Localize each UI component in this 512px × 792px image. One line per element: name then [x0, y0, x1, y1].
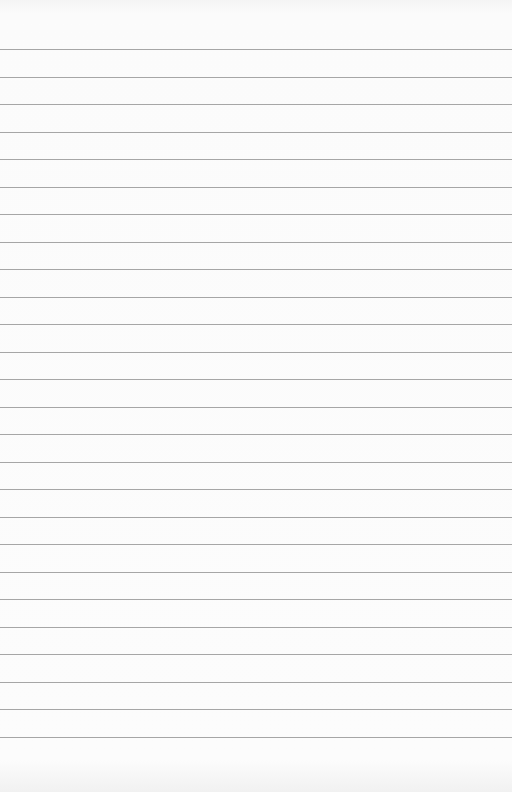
- ruled-line: [0, 572, 512, 573]
- ruled-line: [0, 627, 512, 628]
- ruled-line: [0, 242, 512, 243]
- ruled-line: [0, 434, 512, 435]
- ruled-line: [0, 159, 512, 160]
- ruled-line: [0, 737, 512, 738]
- ruled-line: [0, 297, 512, 298]
- ruled-line: [0, 132, 512, 133]
- lined-paper-sheet: [0, 0, 512, 792]
- ruled-line: [0, 324, 512, 325]
- ruled-line: [0, 352, 512, 353]
- ruled-line: [0, 77, 512, 78]
- ruled-line: [0, 104, 512, 105]
- ruled-line: [0, 49, 512, 50]
- ruled-line: [0, 462, 512, 463]
- ruled-line: [0, 489, 512, 490]
- ruled-line: [0, 709, 512, 710]
- ruled-line: [0, 544, 512, 545]
- ruled-line: [0, 654, 512, 655]
- ruled-line: [0, 269, 512, 270]
- ruled-line: [0, 379, 512, 380]
- ruled-line: [0, 517, 512, 518]
- ruled-line: [0, 407, 512, 408]
- ruled-line: [0, 599, 512, 600]
- ruled-line: [0, 187, 512, 188]
- ruled-line: [0, 214, 512, 215]
- ruled-line: [0, 682, 512, 683]
